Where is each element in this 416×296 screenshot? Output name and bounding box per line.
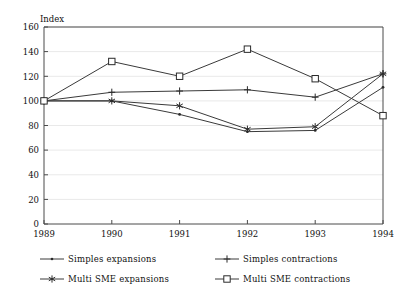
data-point [178, 113, 181, 116]
y-axis-title: Index [40, 14, 64, 24]
x-tick-label-1990: 1990 [101, 229, 123, 239]
y-tick-label-20: 20 [28, 195, 39, 205]
x-tick-label-1993: 1993 [304, 229, 326, 239]
x-tick-label-1989: 1989 [33, 229, 55, 239]
y-tick-label-60: 60 [28, 145, 39, 155]
data-point [176, 73, 182, 79]
square-marker-icon [41, 98, 47, 104]
square-marker-icon [380, 112, 386, 118]
y-tick-label-160: 160 [23, 22, 39, 32]
square-marker-icon [109, 58, 115, 64]
data-point [380, 112, 386, 118]
legend-label-multi-sme-contractions: Multi SME contractions [243, 274, 350, 284]
y-tick-label-140: 140 [23, 47, 39, 57]
square-marker-icon [312, 76, 318, 82]
square-marker-icon [244, 46, 250, 52]
data-point [244, 46, 250, 52]
square-marker-icon [224, 276, 230, 282]
dot-marker-icon [178, 113, 181, 116]
square-marker-icon [176, 73, 182, 79]
index-line-chart: Index 160 140 120 100 80 60 40 20 0 1989… [0, 0, 416, 296]
data-point [109, 58, 115, 64]
y-tick-label-80: 80 [28, 121, 39, 131]
chart-figure: Index 160 140 120 100 80 60 40 20 0 1989… [0, 0, 416, 296]
y-tick-label-120: 120 [23, 72, 39, 82]
dot-marker-icon [382, 86, 385, 89]
data-point [312, 76, 318, 82]
x-tick-label-1994: 1994 [372, 229, 394, 239]
data-point [382, 86, 385, 89]
legend-label-multi-sme-expansions: Multi SME expansions [68, 274, 169, 284]
data-point [41, 98, 47, 104]
y-tick-label-0: 0 [34, 219, 39, 229]
y-tick-label-40: 40 [28, 170, 39, 180]
legend-label-simples-expansions: Simples expansions [68, 254, 156, 264]
dot-marker-icon [51, 258, 54, 261]
legend-label-simples-contractions: Simples contractions [243, 254, 338, 264]
x-tick-label-1992: 1992 [237, 229, 259, 239]
y-tick-label-100: 100 [23, 96, 39, 106]
x-tick-label-1991: 1991 [169, 229, 191, 239]
chart-background [0, 0, 416, 296]
